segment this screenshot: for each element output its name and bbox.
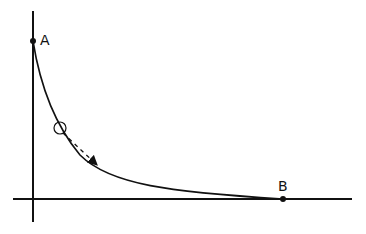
diagram-canvas: A B [0,0,366,234]
curve [33,41,283,199]
point-b [280,196,286,202]
point-a [30,38,36,44]
label-a: A [40,32,50,48]
label-b: B [278,178,288,194]
